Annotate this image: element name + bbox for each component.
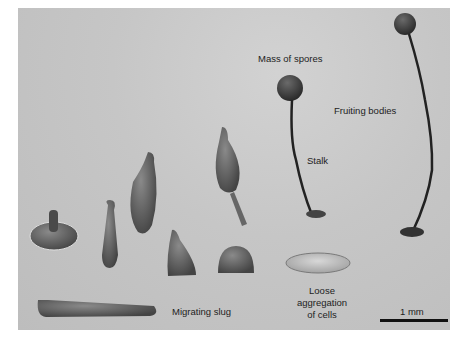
tipped-mound [168, 230, 197, 276]
mound [218, 246, 254, 273]
label-line: of cells [292, 309, 352, 321]
label-migrating-slug: Migrating slug [172, 306, 231, 318]
label-fruiting-bodies: Fruiting bodies [334, 105, 396, 117]
finger-stage [102, 200, 118, 268]
label-stalk: Stalk [307, 155, 328, 167]
mexican-hat-stage [30, 210, 78, 250]
organisms-illustration [0, 0, 458, 339]
fruiting-body-1 [277, 75, 326, 218]
label-line: Loose [292, 285, 352, 297]
fruiting-body-2 [394, 13, 432, 237]
scale-bar [380, 319, 448, 322]
culminant-stage [130, 152, 156, 233]
loose-aggregation [286, 253, 350, 273]
migrating-slug [38, 300, 157, 317]
scale-bar-label: 1 mm [400, 306, 424, 318]
early-culminant [216, 127, 247, 226]
label-mass-of-spores: Mass of spores [258, 53, 322, 65]
label-loose-aggregation: Loose aggregation of cells [292, 285, 352, 321]
label-line: aggregation [292, 297, 352, 309]
